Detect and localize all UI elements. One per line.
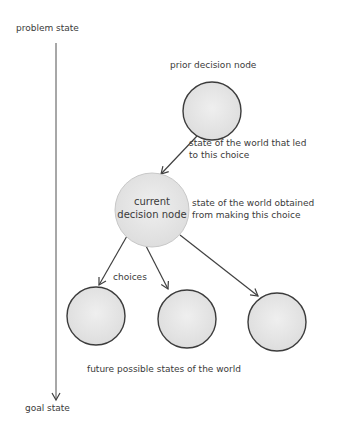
choice-arrow-2 xyxy=(146,246,168,289)
current-state-annotation: state of the world obtained from making … xyxy=(192,197,317,221)
prior-state-annotation: state of the world that led to this choi… xyxy=(189,137,314,161)
prior-decision-node xyxy=(183,82,241,140)
current-node-label-line2: decision node xyxy=(115,208,189,221)
choice-arrow-3 xyxy=(180,235,258,296)
current-node-label: current decision node xyxy=(115,195,189,221)
future-node-1 xyxy=(67,287,125,345)
problem-state-label: problem state xyxy=(16,22,79,34)
future-node-3 xyxy=(248,293,306,351)
goal-state-label: goal state xyxy=(25,402,70,414)
choices-label: choices xyxy=(113,271,147,283)
prior-node-label: prior decision node xyxy=(170,59,256,71)
future-states-label: future possible states of the world xyxy=(87,363,241,375)
current-node-label-line1: current xyxy=(115,195,189,208)
future-node-2 xyxy=(158,290,216,348)
